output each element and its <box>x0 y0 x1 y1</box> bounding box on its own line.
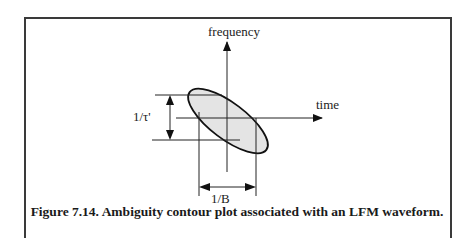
figure-caption: Figure 7.14. Ambiguity contour plot asso… <box>0 204 474 220</box>
time-axis-label: time <box>316 97 339 113</box>
frequency-axis-label: frequency <box>208 24 260 40</box>
ambiguity-ellipse <box>179 78 277 165</box>
tau-label: 1/τ' <box>133 109 151 125</box>
